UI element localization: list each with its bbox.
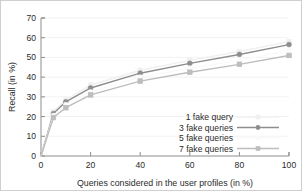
y-tick-label: 50: [26, 52, 36, 62]
axis-frame: [41, 18, 289, 156]
legend-label-3: 5 fake queries: [179, 133, 233, 143]
chart-figure: 010203040506070 020406080100 1 fake quer…: [0, 0, 302, 191]
x-tick-label: 40: [135, 160, 145, 170]
legend-label-4: 7 fake queries: [179, 144, 233, 154]
series-line-3: [41, 48, 291, 156]
y-tick-label: 0: [31, 151, 36, 161]
legend-label-1: 1 fake query: [186, 112, 234, 122]
x-tick-label: 80: [235, 160, 245, 170]
x-axis-title: Queries considered in the user profiles …: [77, 178, 253, 188]
y-axis-title: Recall (in %): [7, 62, 17, 112]
x-tick-label: 20: [86, 160, 96, 170]
x-tick-label: 100: [282, 160, 297, 170]
x-axis-ticks: 020406080100: [39, 152, 297, 170]
y-tick-label: 40: [26, 72, 36, 82]
y-tick-label: 60: [26, 33, 36, 43]
y-tick-label: 70: [26, 13, 36, 23]
legend-label-2: 3 fake queries: [179, 123, 233, 133]
y-tick-label: 10: [26, 131, 36, 141]
y-tick-label: 30: [26, 92, 36, 102]
x-tick-label: 0: [39, 160, 44, 170]
y-tick-label: 20: [26, 112, 36, 122]
series-line-2: [41, 42, 291, 156]
x-tick-label: 60: [185, 160, 195, 170]
chart-legend: 1 fake query3 fake queries5 fake queries…: [179, 112, 279, 154]
y-axis-ticks: 010203040506070: [26, 13, 45, 161]
plot-area: 010203040506070 020406080100 1 fake quer…: [1, 1, 302, 191]
